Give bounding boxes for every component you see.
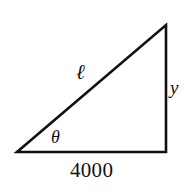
hypotenuse-label: ℓ: [76, 62, 85, 83]
base-length-label: 4000: [70, 160, 113, 181]
figure-root: ℓ θ y 4000: [0, 0, 188, 191]
angle-theta-label: θ: [51, 128, 60, 146]
vertical-leg-label: y: [170, 78, 178, 97]
triangle-outline: [17, 25, 166, 152]
